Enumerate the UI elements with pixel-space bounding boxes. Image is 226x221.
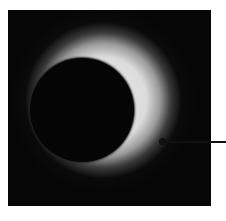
figure-panel [8, 10, 211, 206]
occulting-disc [30, 58, 134, 162]
pointer-line [163, 141, 226, 143]
